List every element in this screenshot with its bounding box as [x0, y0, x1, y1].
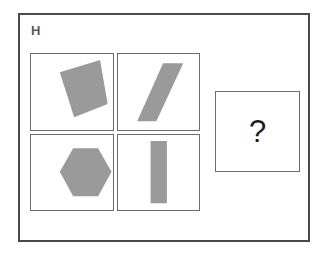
- shape-polygon: [60, 148, 112, 196]
- matrix-grid: [30, 53, 200, 211]
- matrix-cell-top-left[interactable]: [30, 53, 114, 131]
- matrix-cell-bottom-left[interactable]: [30, 134, 114, 212]
- answer-box[interactable]: ?: [215, 91, 300, 172]
- shape-polygon: [150, 141, 166, 203]
- matrix-cell-top-right[interactable]: [117, 53, 201, 131]
- vertical-rectangle-icon: [118, 135, 200, 211]
- matrix-cell-bottom-right[interactable]: [117, 134, 201, 212]
- question-mark-placeholder: ?: [249, 116, 266, 147]
- panel-label: H: [31, 24, 41, 37]
- shape-polygon: [60, 60, 108, 117]
- rotated-quadrilateral-icon: [31, 54, 113, 130]
- puzzle-frame: H ?: [18, 13, 310, 242]
- shape-polygon: [137, 63, 183, 121]
- hexagon-icon: [31, 135, 113, 211]
- slanted-parallelogram-icon: [118, 54, 200, 130]
